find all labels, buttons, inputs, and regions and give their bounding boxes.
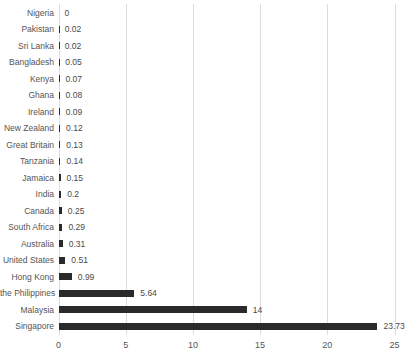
value-label: 14 bbox=[253, 305, 262, 315]
value-label: 0.02 bbox=[65, 24, 82, 34]
x-axis-tick-label: 10 bbox=[178, 340, 208, 350]
category-label: Hong Kong bbox=[0, 272, 54, 282]
bar[interactable] bbox=[59, 174, 61, 181]
bar[interactable] bbox=[59, 207, 62, 214]
value-label: 0.02 bbox=[65, 41, 82, 51]
bar-row: Australia0.31 bbox=[0, 236, 403, 252]
value-label: 0.51 bbox=[71, 255, 88, 265]
bar[interactable] bbox=[59, 224, 63, 231]
category-label: Singapore bbox=[0, 321, 54, 331]
bar-row: Sri Lanka0.02 bbox=[0, 38, 403, 54]
x-axis-tick-label: 5 bbox=[111, 340, 141, 350]
value-label: 23.73 bbox=[383, 321, 404, 331]
bar-row: Ghana0.08 bbox=[0, 87, 403, 103]
category-label: Tanzania bbox=[0, 156, 54, 166]
category-label: Great Britain bbox=[0, 140, 54, 150]
value-label: 0.09 bbox=[66, 107, 83, 117]
value-label: 0.2 bbox=[67, 189, 79, 199]
bar-row: Pakistan0.02 bbox=[0, 21, 403, 37]
category-label: Ireland bbox=[0, 107, 54, 117]
category-label: Jamaica bbox=[0, 173, 54, 183]
bar-row: Bangladesh0.05 bbox=[0, 54, 403, 70]
value-label: 0.07 bbox=[65, 74, 82, 84]
value-label: 0.13 bbox=[66, 140, 83, 150]
value-label: 0.99 bbox=[78, 272, 95, 282]
value-label: 0.31 bbox=[69, 239, 86, 249]
category-label: Sri Lanka bbox=[0, 41, 54, 51]
value-label: 0.08 bbox=[66, 90, 83, 100]
x-axis-tick-label: 20 bbox=[312, 340, 342, 350]
bar-row: South Africa0.29 bbox=[0, 219, 403, 235]
bar-row: Nigeria0 bbox=[0, 5, 403, 21]
bar[interactable] bbox=[59, 273, 72, 280]
value-label: 0.12 bbox=[66, 123, 83, 133]
bar-row: Kenya0.07 bbox=[0, 71, 403, 87]
value-label: 0.29 bbox=[68, 222, 85, 232]
bar-row: India0.2 bbox=[0, 186, 403, 202]
bar[interactable] bbox=[59, 125, 61, 132]
category-label: United States bbox=[0, 255, 54, 265]
bar[interactable] bbox=[59, 257, 66, 264]
bar-row: United States0.51 bbox=[0, 252, 403, 268]
bar[interactable] bbox=[59, 290, 135, 297]
category-label: Pakistan bbox=[0, 24, 54, 34]
value-label: 0.15 bbox=[67, 173, 84, 183]
category-label: Malaysia bbox=[0, 305, 54, 315]
bar[interactable] bbox=[59, 59, 60, 66]
value-label: 5.64 bbox=[140, 288, 157, 298]
category-label: Australia bbox=[0, 239, 54, 249]
bar[interactable] bbox=[59, 240, 63, 247]
bar-row: the Philippines5.64 bbox=[0, 285, 403, 301]
bar-row: New Zealand0.12 bbox=[0, 120, 403, 136]
category-label: Bangladesh bbox=[0, 57, 54, 67]
x-axis-tick-label: 15 bbox=[245, 340, 275, 350]
category-label: New Zealand bbox=[0, 123, 54, 133]
bar[interactable] bbox=[59, 108, 60, 115]
value-label: 0.25 bbox=[68, 206, 85, 216]
bar[interactable] bbox=[59, 141, 61, 148]
value-label: 0.05 bbox=[65, 57, 82, 67]
bar-row: Tanzania0.14 bbox=[0, 153, 403, 169]
bar-row: Hong Kong0.99 bbox=[0, 269, 403, 285]
bar-row: Jamaica0.15 bbox=[0, 170, 403, 186]
bar[interactable] bbox=[59, 306, 247, 313]
value-label: 0 bbox=[65, 8, 70, 18]
category-label: Kenya bbox=[0, 74, 54, 84]
bar-row: Singapore23.73 bbox=[0, 318, 403, 334]
bar[interactable] bbox=[59, 323, 378, 330]
bar-row: Canada0.25 bbox=[0, 203, 403, 219]
bar[interactable] bbox=[59, 158, 61, 165]
bar[interactable] bbox=[59, 191, 62, 198]
category-label: Canada bbox=[0, 206, 54, 216]
bar[interactable] bbox=[59, 92, 60, 99]
category-label: Nigeria bbox=[0, 8, 54, 18]
value-label: 0.14 bbox=[66, 156, 83, 166]
category-label: Ghana bbox=[0, 90, 54, 100]
bar-row: Ireland0.09 bbox=[0, 104, 403, 120]
x-axis-tick-label: 25 bbox=[380, 340, 409, 350]
bar-row: Great Britain0.13 bbox=[0, 137, 403, 153]
category-label: India bbox=[0, 189, 54, 199]
category-label: the Philippines bbox=[0, 288, 54, 298]
bar[interactable] bbox=[59, 75, 60, 82]
x-axis-tick-label: 0 bbox=[44, 340, 74, 350]
category-label: South Africa bbox=[0, 222, 54, 232]
bar-row: Malaysia14 bbox=[0, 302, 403, 318]
